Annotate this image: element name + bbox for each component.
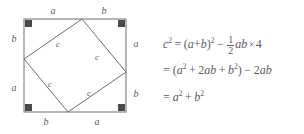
edge-label-left-upper-b: b — [12, 34, 17, 44]
eq2-minus: − — [242, 63, 254, 77]
eq2-a-exponent: 2 — [183, 62, 187, 71]
edge-label-right-lower-b: b — [134, 89, 139, 99]
eq1-one-half-fraction: 12 — [227, 35, 234, 56]
eq1-equals: = — [172, 37, 184, 51]
equation-line-3: =a2+b2 — [163, 91, 204, 103]
eq3-plus: + — [183, 90, 195, 104]
eq1-count: 4 — [256, 37, 262, 51]
outer-square — [24, 19, 126, 112]
eq2-ab2-b: b — [266, 63, 272, 77]
square-diagram-svg — [0, 0, 152, 134]
corner-marker-bottom-left — [25, 104, 32, 111]
eq3-a-exponent: 2 — [179, 89, 183, 98]
edge-label-bottom-left-b: b — [44, 117, 49, 127]
eq1-minus: − — [214, 37, 226, 51]
eq3-equals: = — [163, 90, 170, 104]
eq2-plus-2: + — [216, 63, 228, 77]
hypotenuse-label-top-left-c: c — [56, 40, 60, 49]
inner-tilted-square — [24, 19, 126, 112]
eq2-open-paren: ( — [170, 63, 177, 77]
edge-label-right-upper-a: a — [134, 39, 139, 49]
corner-marker-bottom-right — [118, 104, 125, 111]
eq2-plus-1: + — [187, 63, 199, 77]
eq2-equals: = — [163, 63, 170, 77]
edge-label-top-right-b: b — [102, 6, 107, 16]
corner-marker-top-right — [118, 20, 125, 27]
eq1-fraction-numerator: 1 — [227, 35, 234, 45]
eq3-b-exponent: 2 — [200, 89, 204, 98]
equation-panel: c2=(a+b)2−12ab×4 =(a2+2ab+b2)−2ab =a2+b2 — [152, 0, 304, 134]
corner-marker-top-left — [25, 20, 32, 27]
hypotenuse-label-bottom-left-c: c — [48, 80, 52, 89]
equation-line-2: =(a2+2ab+b2)−2ab — [163, 64, 272, 76]
figure-page: a b a b b a b a c c c c c2=(a+b)2−12ab×4… — [0, 0, 304, 134]
eq1-times-sign: × — [247, 39, 256, 50]
edge-label-bottom-right-a: a — [95, 117, 100, 127]
eq1-fraction-denominator: 2 — [227, 45, 234, 56]
eq1-plus: + — [194, 37, 201, 51]
hypotenuse-label-bottom-right-c: c — [87, 89, 91, 98]
edge-label-left-lower-a: a — [12, 83, 17, 93]
hypotenuse-label-top-right-c: c — [95, 53, 99, 62]
equation-line-1: c2=(a+b)2−12ab×4 — [163, 35, 262, 56]
eq3-a-var: a — [170, 90, 179, 104]
geometry-figure-panel: a b a b b a b a c c c c — [0, 0, 152, 134]
edge-label-top-left-a: a — [51, 6, 56, 16]
